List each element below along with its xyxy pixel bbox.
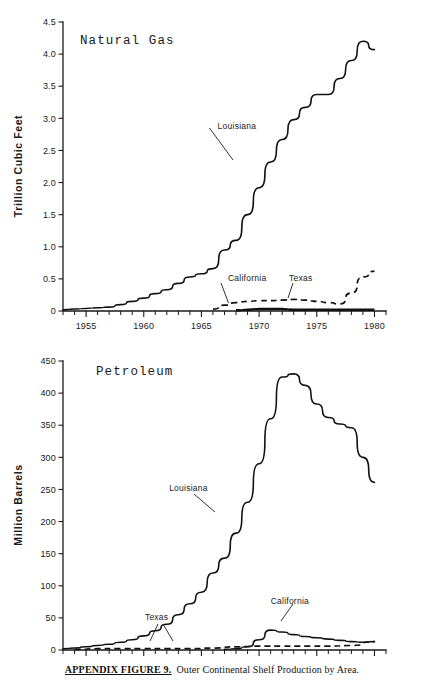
y-tick-label: 1.5 [43,210,56,220]
natural-gas-texas-label: Texas [289,273,312,283]
x-tick-label: 1975 [306,321,327,331]
panel-petroleum: 050100150200250300350400450 195519601965… [12,356,386,660]
y-tick-label: 50 [46,613,56,623]
y-tick-label: 150 [40,549,56,559]
y-tick-label: 400 [40,388,56,398]
x-tick-label: 1960 [133,321,154,331]
figure-container: 00.51.01.52.02.53.03.54.04.5 19551960196… [0,0,424,685]
petroleum-louisiana-leader [194,494,215,512]
y-tick-label: 0 [51,645,56,655]
x-tick-label: 1980 [364,321,385,331]
natural-gas-california-curve [236,309,374,310]
figure-caption-text: Outer Continental Shelf Production by Ar… [177,664,360,675]
y-tick-label: 100 [40,581,56,591]
petroleum-y-axis-title: Million Barrels [12,464,24,545]
petroleum-axes [59,361,387,656]
natural-gas-y-tick-labels: 00.51.01.52.02.53.03.54.04.5 [43,17,56,316]
x-tick-label: 1955 [76,321,97,331]
petroleum-panel-title: Petroleum [96,365,173,379]
y-tick-label: 2.5 [43,146,56,156]
y-tick-label: 200 [40,517,56,527]
natural-gas-louisiana-curve [63,41,374,309]
y-tick-label: 0.5 [43,274,56,284]
natural-gas-louisiana-leader [210,128,234,160]
natural-gas-y-axis-title: Trillion Cubic Feet [12,115,24,217]
petroleum-y-tick-labels: 050100150200250300350400450 [40,356,56,655]
natural-gas-x-tick-labels: 195519601965197019751980 [76,321,385,331]
x-tick-label: 1970 [249,321,270,331]
petroleum-texas-leader-right [163,624,173,641]
y-tick-label: 0 [51,306,56,316]
panel-natural-gas: 00.51.01.52.02.53.03.54.04.5 19551960196… [12,17,386,331]
y-tick-label: 3.5 [43,81,56,91]
natural-gas-axes [59,22,387,317]
petroleum-california-label: California [271,596,309,606]
petroleum-texas-leader-left [150,624,158,641]
natural-gas-california-label: California [228,273,266,283]
y-tick-label: 3.0 [43,114,56,124]
natural-gas-louisiana-label: Louisiana [218,121,257,131]
petroleum-louisiana-curve [63,374,374,649]
x-tick-label: 1965 [191,321,212,331]
petroleum-texas-label: Texas [145,612,168,622]
y-tick-label: 2.0 [43,178,56,188]
outer-continental-shelf-production-figure: 00.51.01.52.02.53.03.54.04.5 19551960196… [0,0,424,660]
y-tick-label: 300 [40,453,56,463]
y-tick-label: 4.0 [43,49,56,59]
y-tick-label: 350 [40,420,56,430]
y-tick-label: 4.5 [43,17,56,27]
figure-caption-label: APPENDIX FIGURE 9. [65,664,172,675]
petroleum-california-leader [281,604,293,621]
natural-gas-texas-leader [288,283,293,298]
y-tick-label: 450 [40,356,56,366]
natural-gas-california-leader [221,283,229,303]
y-tick-label: 1.0 [43,242,56,252]
figure-caption: APPENDIX FIGURE 9.Outer Continental Shel… [0,664,424,675]
natural-gas-panel-title: Natural Gas [80,34,175,48]
petroleum-louisiana-label: Louisiana [169,483,208,493]
y-tick-label: 250 [40,485,56,495]
